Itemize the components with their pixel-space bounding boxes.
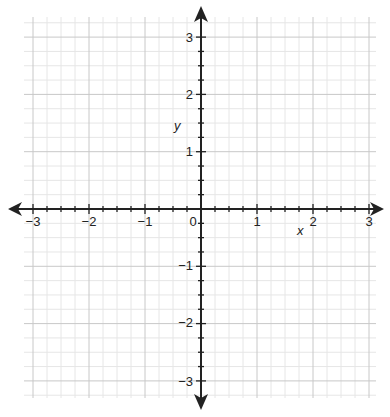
x-tick-label: 1 [253, 214, 260, 229]
origin-label: 0 [189, 214, 196, 229]
x-tick-label: −3 [26, 214, 41, 229]
x-tick-label: 2 [309, 214, 316, 229]
y-tick-label: 1 [186, 144, 193, 159]
x-tick-label: −1 [138, 214, 153, 229]
coordinate-plane: −3 −2 −1 0 1 2 3 3 2 1 −1 −2 −3 x y [0, 0, 390, 417]
x-axis-label: x [296, 223, 304, 238]
y-tick-label: 3 [186, 30, 193, 45]
y-tick-label: 2 [186, 87, 193, 102]
y-axis-label: y [173, 118, 182, 133]
y-tick-label: −2 [178, 315, 193, 330]
y-tick-label: −3 [178, 374, 193, 389]
x-tick-label: 3 [365, 214, 372, 229]
x-tick-label: −2 [82, 214, 97, 229]
y-tick-label: −1 [178, 258, 193, 273]
